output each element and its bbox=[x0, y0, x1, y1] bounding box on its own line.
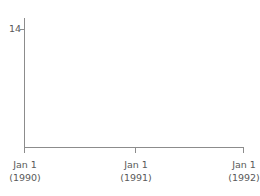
x-axis-tick-label-0-line1: Jan 1 bbox=[13, 159, 37, 170]
x-axis-tick-label-1: Jan 1 (1991) bbox=[101, 159, 171, 184]
x-axis-tick-label-2-line1: Jan 1 bbox=[232, 159, 256, 170]
chart-container: 14 Jan 1 (1990) Jan 1 (1991) Jan 1 (1992… bbox=[0, 0, 260, 196]
x-axis-tick-label-0-line2: (1990) bbox=[0, 172, 60, 185]
x-axis-tick-label-1-line1: Jan 1 bbox=[124, 159, 148, 170]
x-axis-tick-label-1-line2: (1991) bbox=[101, 172, 171, 185]
x-axis-tick-label-0: Jan 1 (1990) bbox=[0, 159, 60, 184]
x-axis-tick-label-2: Jan 1 (1992) bbox=[209, 159, 260, 184]
x-axis-tick-label-2-line2: (1992) bbox=[209, 172, 260, 185]
y-axis-tick-label-0: 14 bbox=[9, 24, 21, 34]
